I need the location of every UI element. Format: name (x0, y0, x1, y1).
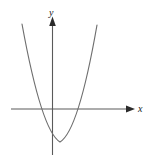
graph-canvas (0, 0, 159, 160)
y-axis-label: y (49, 8, 53, 18)
parabola-curve (22, 24, 97, 142)
parabola-graph-figure: y x (0, 0, 159, 160)
x-axis-label: x (138, 104, 142, 114)
x-axis-arrow-icon (126, 106, 135, 113)
